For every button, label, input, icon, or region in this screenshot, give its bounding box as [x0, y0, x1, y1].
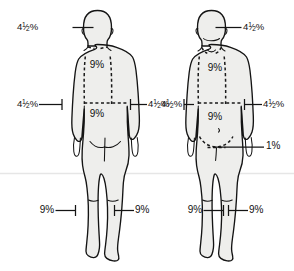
back-body-shape — [72, 45, 140, 262]
back-head-shape — [84, 11, 112, 47]
label-front-abdomen: 9% — [208, 112, 222, 122]
back-gluteal-cleft — [104, 138, 105, 161]
label-front-head: 41⁄2% — [243, 22, 264, 32]
label-front-chest: 9% — [208, 63, 222, 73]
label-front-left-leg: 9% — [188, 205, 202, 215]
label-back-head: 41⁄2% — [17, 22, 38, 32]
front-view-figure — [184, 11, 264, 262]
label-back-left-leg: 9% — [40, 205, 54, 215]
label-back-left-arm: 41⁄2% — [17, 99, 38, 109]
label-front-right-arm: 41⁄2% — [263, 99, 284, 109]
label-front-right-leg: 9% — [249, 205, 263, 215]
back-right-hand — [131, 138, 138, 157]
label-back-upper-torso: 9% — [90, 60, 104, 70]
label-front-left-arm: 41⁄2% — [161, 99, 182, 109]
back-view-figure — [39, 11, 147, 262]
fraction-four-and-half: 41⁄2% — [17, 22, 38, 32]
label-back-right-leg: 9% — [135, 205, 149, 215]
label-back-lower-torso: 9% — [90, 109, 104, 119]
front-clavicle-left — [198, 46, 202, 52]
label-front-genitalia: 1% — [266, 141, 280, 151]
diagram-canvas — [0, 0, 294, 271]
back-trapezius-line — [84, 46, 88, 51]
rule-of-nines-diagram: 41⁄2% 9% 9% 41⁄2% 41⁄2% 9% 9% 41⁄2% 9% 9… — [0, 0, 294, 271]
front-body-shape — [186, 45, 254, 262]
